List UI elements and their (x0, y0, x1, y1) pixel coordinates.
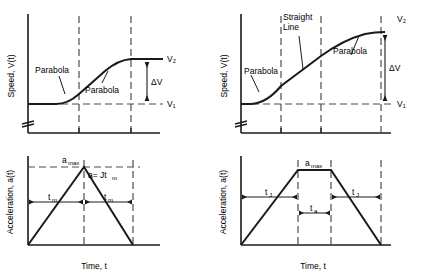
figure-root: Speed, V(t) Parabola Parabola V₂ V₁ ΔV (0, 0, 426, 274)
panel-top-left: Speed, V(t) Parabola Parabola V₂ V₁ ΔV (0, 0, 213, 140)
svg-text:Straight: Straight (283, 12, 313, 22)
parabola-label-2: Parabola (333, 46, 367, 56)
y-axis-label: Acceleration, a(t) (218, 170, 228, 234)
panel-bottom-right: Acceleration, a(t) Time, t a max t J t a… (213, 140, 426, 274)
svg-text:m: m (112, 175, 117, 181)
x-axis-label: Time, t (81, 261, 107, 271)
parabola-1-leader (251, 75, 259, 92)
trapezoidal-acceleration-chart: Acceleration, a(t) Time, t a max t J t a… (213, 140, 426, 274)
parabola-1-leader (59, 76, 65, 94)
trapezoidal-jerk-speed-chart: Speed, V(t) Parabola Straight Line Parab… (213, 0, 426, 140)
delta-v-label: ΔV (151, 77, 163, 87)
tj-label-left: t J (265, 187, 272, 198)
svg-text:t: t (48, 192, 51, 202)
amax-label: a max (62, 155, 79, 166)
parabola-label-1: Parabola (35, 65, 69, 75)
svg-text:t: t (352, 187, 355, 197)
svg-text:a: a (305, 158, 310, 168)
svg-text:max: max (311, 163, 322, 169)
delta-v-arrow (383, 35, 388, 101)
parabola-label-1: Parabola (244, 66, 278, 76)
svg-text:Line: Line (283, 22, 299, 32)
svg-text:J: J (356, 192, 359, 198)
tm-label-right: t m (104, 192, 113, 203)
amax-label: a max (305, 158, 322, 169)
v1-label: V₁ (167, 99, 176, 109)
panel-top-right: Speed, V(t) Parabola Straight Line Parab… (213, 0, 426, 140)
svg-text:m: m (52, 197, 57, 203)
tj-label-right: t J (352, 187, 359, 198)
peak-equation-label: a= Jt m (88, 170, 117, 181)
triangular-jerk-speed-chart: Speed, V(t) Parabola Parabola V₂ V₁ ΔV (0, 0, 213, 140)
v2-label: V₂ (397, 14, 406, 24)
svg-text:t: t (310, 203, 313, 213)
svg-text:a: a (62, 155, 67, 165)
svg-text:a= Jt: a= Jt (88, 170, 107, 180)
tm-label-left: t m (48, 192, 57, 203)
svg-text:t: t (265, 187, 268, 197)
y-axis-label: Speed, V(t) (219, 54, 229, 97)
acceleration-curve (28, 167, 133, 245)
x-axis-label: Time, t (300, 261, 326, 271)
panel-bottom-left: Acceleration, a(t) Time, t a max a= Jt m… (0, 140, 213, 274)
y-axis-label: Speed, V(t) (6, 54, 16, 97)
y-axis-label: Acceleration, a(t) (5, 170, 15, 234)
svg-text:J: J (269, 192, 272, 198)
svg-text:max: max (68, 160, 79, 166)
v1-label: V₁ (397, 99, 406, 109)
svg-text:t: t (104, 192, 107, 202)
v2-label: V₂ (167, 54, 176, 64)
delta-v-arrow (145, 62, 150, 101)
triangular-acceleration-chart: Acceleration, a(t) Time, t a max a= Jt m… (0, 140, 213, 274)
straight-line-leader (299, 36, 303, 69)
ta-label-center: t a (310, 203, 318, 214)
parabola-label-2: Parabola (85, 85, 119, 95)
delta-v-label: ΔV (389, 63, 401, 73)
svg-text:m: m (108, 197, 113, 203)
straight-line-label: Straight Line (283, 12, 313, 32)
